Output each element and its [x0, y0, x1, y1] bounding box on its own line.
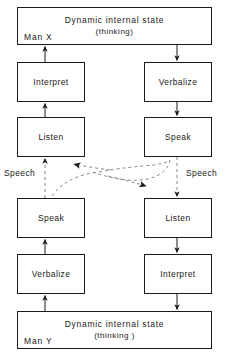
- box-right-interpret: Interpret: [144, 254, 212, 294]
- box-left-listen: Listen: [17, 117, 85, 157]
- speech-arrow-to-left-listen: [74, 164, 110, 170]
- box-left-interpret: Interpret: [17, 62, 85, 102]
- box-left-verbalize: Verbalize: [17, 254, 85, 294]
- left-listen-label: Listen: [18, 132, 84, 142]
- speech-path-man-x-to-man-y-tail: [92, 160, 170, 180]
- left-verbalize-label: Verbalize: [18, 269, 84, 279]
- label-man-y: Man Y: [24, 336, 52, 346]
- right-interpret-label: Interpret: [145, 269, 211, 279]
- speech-arrow-to-right-listen: [108, 176, 146, 186]
- man-x-state-title: Dynamic internal state: [18, 15, 211, 25]
- box-man-x-dynamic-internal-state: Dynamic internal state (thinking) Man X: [17, 7, 212, 45]
- right-speak-label: Speak: [145, 132, 211, 142]
- right-verbalize-label: Verbalize: [145, 77, 211, 87]
- box-right-speak: Speak: [144, 117, 212, 157]
- diagram-canvas: Dynamic internal state (thinking) Man X …: [0, 0, 229, 357]
- speech-path-man-y-to-man-x-tail: [52, 162, 167, 196]
- left-interpret-label: Interpret: [18, 77, 84, 87]
- box-right-verbalize: Verbalize: [144, 62, 212, 102]
- man-y-state-title: Dynamic internal state: [18, 319, 211, 329]
- right-listen-label: Listen: [145, 213, 211, 223]
- speech-label-right: Speech: [186, 168, 217, 178]
- speech-label-left: Speech: [4, 168, 35, 178]
- arrows-overlay: [0, 0, 229, 357]
- label-man-x: Man X: [24, 32, 53, 42]
- box-left-speak: Speak: [17, 198, 85, 238]
- box-man-y-dynamic-internal-state: Dynamic internal state (thinking ) Man Y: [17, 311, 212, 349]
- left-speak-label: Speak: [18, 213, 84, 223]
- box-right-listen: Listen: [144, 198, 212, 238]
